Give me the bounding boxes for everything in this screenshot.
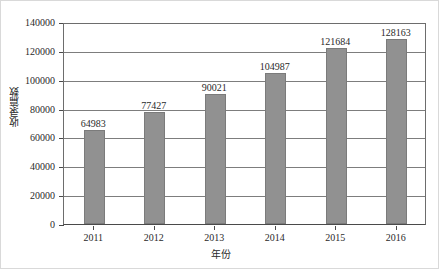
bar (265, 73, 286, 224)
bar (326, 48, 347, 224)
y-axis-tick-label: 120000 (1, 47, 55, 57)
x-axis-tick (396, 226, 397, 230)
x-axis-tick-label: 2012 (124, 232, 184, 243)
bar-value-label: 77427 (119, 100, 189, 111)
bar-value-label: 128163 (361, 27, 431, 38)
y-axis-tick-label: 40000 (1, 162, 55, 172)
gridline (64, 138, 425, 139)
x-axis-title: 年份 (1, 249, 439, 260)
bar-value-label: 64983 (58, 118, 128, 129)
x-axis-tick (214, 226, 215, 230)
x-axis-tick-label: 2013 (184, 232, 244, 243)
bar (386, 39, 407, 224)
gridline (64, 52, 425, 53)
gridline (64, 167, 425, 168)
y-axis-tick-label: 80000 (1, 105, 55, 115)
bar (205, 94, 226, 224)
x-axis-tick-label: 2011 (63, 232, 123, 243)
x-axis-tick-label: 2016 (366, 232, 426, 243)
y-axis-tick-label: 60000 (1, 133, 55, 143)
x-axis-tick (335, 226, 336, 230)
y-axis-tick-label: 140000 (1, 18, 55, 28)
y-axis-tick (59, 225, 63, 226)
bar-value-label: 90021 (179, 82, 249, 93)
bar (84, 130, 105, 224)
x-axis-tick-label: 2015 (305, 232, 365, 243)
y-axis-tick-label: 0 (1, 220, 55, 230)
x-axis-tick (93, 226, 94, 230)
x-axis-tick (275, 226, 276, 230)
bar (144, 112, 165, 224)
y-axis-tick-label: 20000 (1, 191, 55, 201)
bar-chart-figure: 收录篇数 02000040000600008000010000012000014… (0, 0, 439, 269)
bar-value-label: 121684 (300, 36, 370, 47)
gridline (64, 196, 425, 197)
x-axis-tick-label: 2014 (245, 232, 305, 243)
x-axis-tick (154, 226, 155, 230)
bar-value-label: 104987 (240, 61, 310, 72)
y-axis-tick-label: 100000 (1, 76, 55, 86)
